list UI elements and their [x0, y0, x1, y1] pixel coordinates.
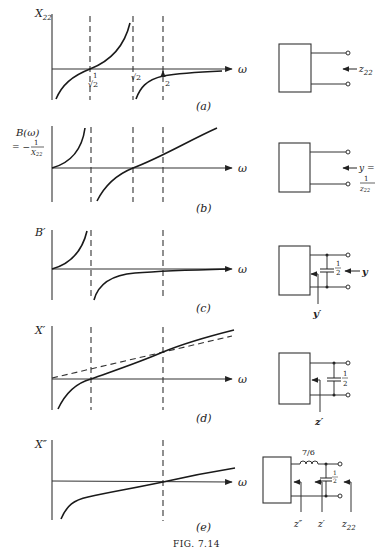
capacitor-value-num: 1 [333, 469, 337, 476]
terminal [346, 285, 350, 289]
terminal [346, 253, 350, 257]
terminal [338, 494, 342, 498]
inner-port-label: y′ [312, 308, 322, 319]
y-axis-label-line1: B(ω) [15, 127, 39, 138]
y-axis-label-prefix: = − [12, 142, 30, 152]
x-axis-label: ω [238, 63, 247, 76]
y-axis-label: B′ [34, 226, 46, 239]
port-frac-num: 1 [364, 175, 368, 183]
x-axis-label: ω [238, 162, 247, 175]
terminal [346, 82, 350, 86]
susceptance-curve [94, 269, 228, 300]
inner-arrow [311, 274, 318, 304]
tick-label-3: 2 [165, 79, 170, 88]
asymptote-slope-line [52, 336, 232, 378]
figure-canvas: X22 ω 1 √2 √2 2 (a) z22 B(ω) = − 1 X22 ω… [0, 0, 379, 556]
two-port-box [279, 143, 310, 192]
panel-e-plot: X″ ω (e) FIG. 7.14 [34, 438, 247, 549]
panel-e-network: 7/6 1 2 z″ z′ z22 [263, 448, 356, 532]
tick-label-2: √2 [131, 73, 141, 82]
two-port-box [263, 457, 291, 503]
panel-d-network: 1 2 z′ [279, 353, 350, 427]
panel-label: (b) [196, 202, 212, 215]
y-axis-frac-num: 1 [34, 139, 38, 147]
inductor [300, 461, 318, 464]
two-port-box [279, 246, 310, 295]
terminal [346, 51, 350, 55]
susceptance-curve [52, 231, 87, 269]
susceptance-curve [52, 128, 85, 168]
capacitor-value-den: 2 [336, 269, 340, 277]
capacitor-value-den: 2 [343, 380, 347, 388]
terminal [346, 361, 350, 365]
port-label-z-prime: z′ [317, 519, 325, 529]
x-axis [52, 481, 232, 482]
reactance-curve [61, 468, 235, 519]
panel-label: (c) [196, 302, 211, 315]
x-axis-label: ω [238, 263, 247, 276]
tick-label-1-den: √2 [88, 80, 98, 89]
x-axis-label: ω [238, 476, 247, 489]
outer-port-label: y [361, 266, 369, 277]
panel-d-plot: X′ ω (d) [34, 324, 247, 425]
reactance-curve [58, 330, 234, 409]
panel-a-plot: X22 ω 1 √2 √2 2 (a) [34, 7, 247, 113]
terminal [346, 150, 350, 154]
port-label: z22 [358, 64, 373, 77]
capacitor-value-num: 1 [336, 260, 340, 268]
panel-a-network: z22 [279, 44, 373, 92]
y-axis-frac-den: X22 [30, 149, 42, 157]
x-axis-label: ω [238, 373, 247, 386]
port-arrow-z-prime [315, 482, 322, 512]
port-arrow-z-double-prime [294, 482, 301, 512]
two-port-box [279, 353, 310, 404]
inner-port-label: z′ [314, 416, 324, 427]
y-axis-label: X′ [34, 324, 46, 337]
reactance-curve [136, 71, 222, 99]
inner-arrow [312, 380, 320, 412]
port-arrow-z22 [344, 482, 351, 512]
inductor-value: 7/6 [302, 448, 315, 457]
port-frac-den: z22 [359, 185, 370, 193]
capacitor-value-num: 1 [343, 370, 347, 378]
susceptance-curve [97, 128, 217, 201]
panel-c-network: 1 2 y y′ [279, 246, 369, 319]
capacitor-value-den: 2 [333, 477, 337, 484]
tick-label-1-num: 1 [93, 72, 97, 80]
terminal [346, 393, 350, 397]
port-label-z-double-prime: z″ [293, 519, 303, 529]
panel-label: (e) [196, 521, 211, 534]
terminal [338, 462, 342, 466]
terminal [346, 182, 350, 186]
panel-label: (a) [196, 100, 211, 113]
panel-label: (d) [196, 412, 212, 425]
y-axis-label: X22 [34, 7, 52, 22]
panel-b-plot: B(ω) = − 1 X22 ω (b) [12, 126, 247, 215]
panel-c-plot: B′ ω (c) [34, 226, 247, 315]
port-label: y = [358, 163, 375, 173]
y-axis-label: X″ [34, 438, 48, 451]
panel-b-network: y = 1 z22 [279, 143, 375, 193]
port-label-z22: z22 [341, 519, 356, 532]
figure-caption: FIG. 7.14 [173, 539, 220, 549]
two-port-box [279, 44, 311, 92]
